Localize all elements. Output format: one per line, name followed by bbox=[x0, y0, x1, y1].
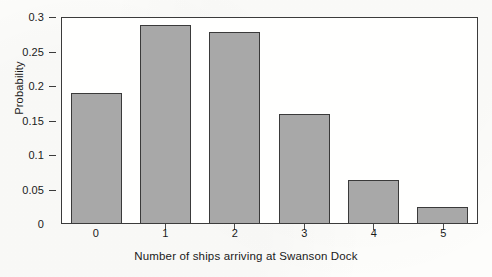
x-tick-label: 2 bbox=[209, 227, 260, 243]
y-tick-label: 0.25 bbox=[22, 46, 44, 57]
y-tick-mark bbox=[49, 155, 56, 156]
y-tick-label: 0 bbox=[38, 219, 44, 230]
bar-category-1 bbox=[140, 25, 191, 223]
x-tick-label: 1 bbox=[140, 227, 191, 243]
y-tick-label: 0.3 bbox=[28, 12, 44, 23]
bar-category-3 bbox=[279, 114, 330, 223]
y-tick-mark bbox=[49, 86, 56, 87]
x-axis-title: Number of ships arriving at Swanson Dock bbox=[0, 250, 492, 262]
x-tick-label: 0 bbox=[70, 227, 121, 243]
bar-category-0 bbox=[71, 93, 122, 223]
y-tick-mark bbox=[49, 121, 56, 122]
y-tick-mark bbox=[49, 52, 56, 53]
y-tick-label: 0.2 bbox=[28, 81, 44, 92]
x-tick-label: 3 bbox=[279, 227, 330, 243]
bar-series bbox=[62, 18, 477, 223]
x-tick-label: 4 bbox=[348, 227, 399, 243]
y-tick-label: 0.15 bbox=[22, 115, 44, 126]
y-tick-mark bbox=[49, 17, 56, 18]
figure-canvas: Probability 0.3 0.25 0.2 0.15 0.1 0.05 0 bbox=[0, 0, 492, 277]
y-tick-mark bbox=[49, 190, 56, 191]
bar-category-2 bbox=[209, 32, 260, 223]
plot-area bbox=[61, 17, 478, 224]
x-tick-label: 5 bbox=[418, 227, 469, 243]
y-axis-tick-labels: 0.3 0.25 0.2 0.15 0.1 0.05 0 bbox=[0, 9, 56, 232]
bar-category-4 bbox=[348, 180, 399, 223]
y-tick-label: 0.1 bbox=[28, 150, 44, 161]
bar-category-5 bbox=[417, 207, 468, 223]
x-axis-tick-labels: 0 1 2 3 4 5 bbox=[61, 227, 478, 243]
y-tick-label: 0.05 bbox=[22, 184, 44, 195]
